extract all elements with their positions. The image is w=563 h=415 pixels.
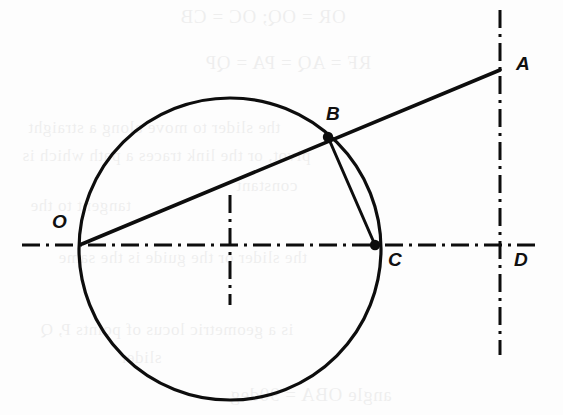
point-label-B: B <box>326 104 340 123</box>
point-marker-B <box>323 132 333 142</box>
diagram-canvas <box>0 0 563 415</box>
center-lines-group <box>22 10 535 355</box>
main-circle <box>79 98 381 400</box>
point-label-O: O <box>52 212 67 231</box>
point-label-D: D <box>514 250 528 269</box>
point-label-A: A <box>516 54 530 73</box>
geometry-figure: OR = OQ; OC = CB RF = AQ = PA = QP the s… <box>0 0 563 415</box>
circle-group <box>79 98 381 400</box>
point-label-C: C <box>388 250 402 269</box>
segments-group <box>82 70 500 245</box>
point-marker-C <box>370 240 380 250</box>
secant-O-A <box>82 70 500 244</box>
